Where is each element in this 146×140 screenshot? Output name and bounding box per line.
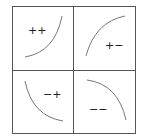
quadrant-bottom-right: −− <box>87 80 126 120</box>
curve-convex-decreasing <box>25 81 63 121</box>
sign-quadrant-diagram: ++ +− −+ −− <box>0 0 146 140</box>
quadrant-label: −− <box>89 103 107 116</box>
quadrant-label: +− <box>105 39 123 52</box>
quadrant-bottom-left: −+ <box>25 81 63 121</box>
quadrant-label: −+ <box>43 88 61 101</box>
quadrant-label: ++ <box>28 24 46 37</box>
quadrant-top-left: ++ <box>25 16 62 57</box>
quadrant-top-right: +− <box>86 16 125 56</box>
